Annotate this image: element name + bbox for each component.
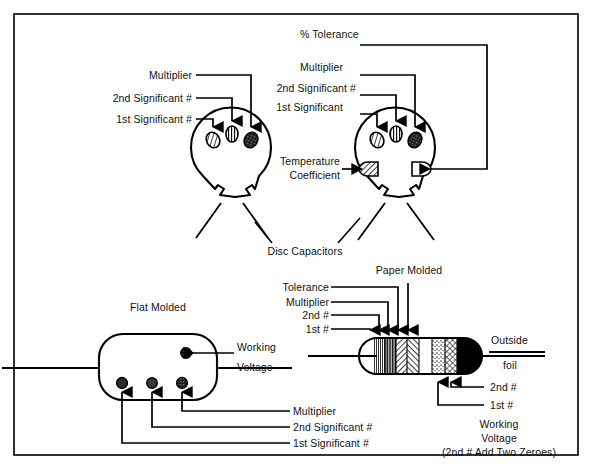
label-working-voltage-line2: Voltage [237, 361, 273, 373]
label-tolerance-paper: Tolerance [241, 281, 329, 293]
right-disc-capacitor [355, 107, 435, 240]
band-2nd-significant-right [390, 126, 402, 142]
disc-body-left [191, 107, 271, 197]
label-multiplier-left-disc: Multiplier [66, 69, 192, 81]
label-2nd-significant-left-disc: 2nd Significant # [46, 92, 192, 104]
dot-working-voltage [181, 348, 191, 358]
band-2nd-significant-left [226, 126, 238, 142]
label-temperature-coefficient-line2: Coefficient [262, 169, 340, 181]
dot-multiplier [177, 378, 188, 389]
caption-paper-molded: Paper Molded [348, 264, 470, 276]
label-working-voltage-line1: Working [237, 341, 276, 353]
label-multiplier-right-disc: Multiplier [300, 61, 343, 73]
label-percent-tolerance: % Tolerance [300, 28, 359, 40]
capacitor-color-code-diagram: Multiplier 2nd Significant # 1st Signifi… [0, 0, 591, 471]
label-working-paper-line3: (2nd # Add Two Zeroes) [418, 446, 580, 458]
label-2nd-number-lower: 2nd # [490, 381, 517, 393]
left-disc-capacitor [191, 107, 271, 238]
label-working-paper-line2: Voltage [428, 432, 570, 444]
label-2nd-significant-flat: 2nd Significant # [293, 421, 372, 433]
dot-2nd-significant [147, 378, 157, 388]
label-1st-significant-right-disc: 1st Significant [210, 101, 343, 113]
lead-left-1 [196, 203, 221, 238]
flat-molded-body [99, 334, 217, 400]
label-foil: foil [503, 359, 517, 371]
label-multiplier-paper: Multiplier [241, 296, 329, 308]
label-2nd-number-paper: 2nd # [241, 309, 329, 321]
label-1st-number-paper: 1st # [241, 323, 329, 335]
label-1st-significant-left-disc: 1st Significant # [46, 113, 192, 125]
lead-right-1 [358, 203, 385, 240]
lead-right-2 [407, 203, 434, 240]
caption-disc-capacitors: Disc Capacitors [244, 245, 366, 257]
label-1st-significant-flat: 1st Significant # [293, 437, 369, 449]
label-1st-number-lower: 1st # [490, 399, 513, 411]
label-outside: Outside [491, 334, 528, 346]
band-percent-tolerance [412, 162, 431, 176]
label-temperature-coefficient-line1: Temperature [262, 155, 340, 167]
label-multiplier-flat: Multiplier [293, 405, 336, 417]
disc-body-right [355, 107, 435, 197]
disc-caption-leaders [255, 218, 360, 243]
caption-flat-molded: Flat Molded [98, 301, 218, 313]
dot-1st-significant [117, 378, 128, 389]
label-2nd-significant-right-disc: 2nd Significant # [210, 82, 356, 94]
label-working-paper-line1: Working [428, 418, 570, 430]
